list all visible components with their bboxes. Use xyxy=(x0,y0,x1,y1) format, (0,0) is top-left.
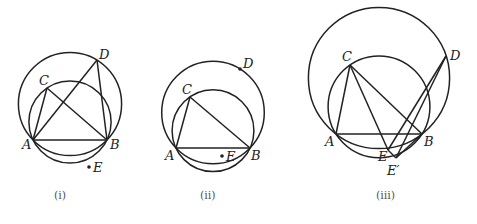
label-b: B xyxy=(423,134,434,149)
segment-cb xyxy=(190,97,250,148)
figure-2: A B C D E (ⅱ) xyxy=(162,56,265,202)
label-a: A xyxy=(324,134,334,149)
label-e: E xyxy=(377,149,388,164)
caption-2: (ⅱ) xyxy=(200,189,216,202)
diagram-svg: A B C D E (ⅰ) A B C D E (ⅱ) A B C D xyxy=(0,0,477,224)
label-e: E xyxy=(92,160,103,175)
circle-abc xyxy=(172,90,254,172)
label-b: B xyxy=(109,137,120,152)
circle-abd xyxy=(308,7,449,148)
label-c: C xyxy=(342,49,352,64)
segment-e2d xyxy=(396,56,446,158)
label-e: E xyxy=(225,149,236,164)
label-c: C xyxy=(182,82,192,97)
label-d: D xyxy=(449,48,461,63)
figure-1: A B C D E (ⅰ) xyxy=(18,47,121,202)
segment-ce xyxy=(350,65,388,150)
point-e-dot xyxy=(87,165,91,169)
caption-3: (ⅲ) xyxy=(376,189,395,202)
segment-ed xyxy=(388,56,446,150)
label-c: C xyxy=(39,73,49,88)
segment-cb xyxy=(47,88,107,140)
label-d: D xyxy=(98,47,110,62)
label-a: A xyxy=(164,148,174,163)
segment-cb xyxy=(350,65,422,134)
label-b: B xyxy=(250,148,261,163)
point-e-dot xyxy=(220,154,224,158)
caption-1: (ⅰ) xyxy=(54,189,66,202)
figure-3: A B C D E E′ (ⅲ) xyxy=(308,7,461,202)
label-a: A xyxy=(21,137,31,152)
label-e-prime: E′ xyxy=(386,163,399,178)
segment-ad xyxy=(33,60,97,140)
label-d: D xyxy=(242,56,254,71)
segment-ac xyxy=(176,97,190,148)
point-d-dot xyxy=(238,67,242,71)
geometry-diagram: A B C D E (ⅰ) A B C D E (ⅱ) A B C D xyxy=(0,0,477,224)
